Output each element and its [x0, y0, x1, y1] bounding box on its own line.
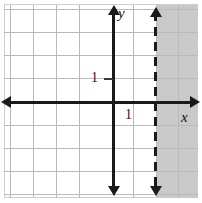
y-axis-label: y [118, 6, 125, 21]
x-axis-right-arrow-icon [190, 96, 200, 108]
y-axis-tick-label-1: 1 [91, 71, 98, 85]
gridline-horizontal [4, 171, 198, 172]
gridline-horizontal [4, 55, 198, 56]
x-axis-label: x [181, 110, 188, 125]
y-axis-down-arrow-icon [108, 186, 120, 196]
boundary-dashed-line [154, 12, 157, 188]
gridline-horizontal [4, 148, 198, 149]
y-axis [112, 10, 115, 190]
gridline-horizontal [4, 194, 198, 195]
gridline-horizontal [4, 32, 198, 33]
y-axis-tick-mark [104, 78, 113, 80]
boundary-down-arrow-icon [150, 186, 162, 196]
x-axis-tick-label-1: 1 [125, 108, 132, 122]
gridline-horizontal [4, 9, 198, 10]
gridline-horizontal [4, 78, 198, 79]
x-axis-left-arrow-icon [1, 96, 11, 108]
gridline-horizontal [4, 125, 198, 126]
boundary-up-arrow-icon [150, 7, 162, 17]
coordinate-plane-figure: y x 1 1 [0, 0, 202, 203]
x-axis [6, 101, 196, 104]
